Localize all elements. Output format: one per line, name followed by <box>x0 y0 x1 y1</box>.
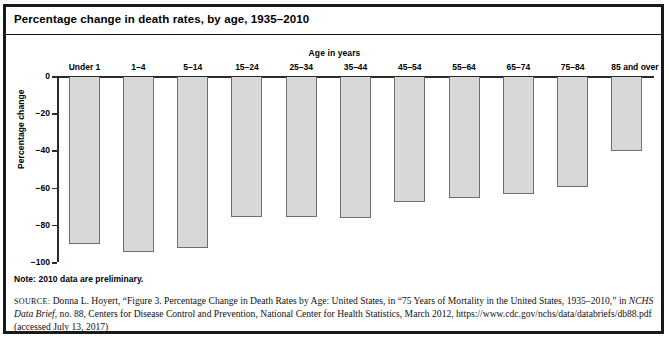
source-text-a: Donna L. Hoyert, “Figure 3. Percentage C… <box>50 295 385 306</box>
y-axis-line <box>57 76 59 262</box>
bar <box>123 77 154 252</box>
plot-area: 0−20−40−60−80−100 Under 11–45–1415–2425–… <box>57 76 654 262</box>
y-tick-mark <box>52 113 57 115</box>
category-label: 85 and over <box>611 62 642 72</box>
source-text-c: , no. 88, Centers for Disease Control an… <box>55 308 454 319</box>
y-tick-label: −60 <box>36 183 50 193</box>
bar <box>394 77 425 202</box>
bar <box>69 77 100 244</box>
figure-container: Percentage change in death rates, by age… <box>0 0 669 341</box>
title-divider <box>6 34 661 35</box>
category-label: 65–74 <box>503 62 534 72</box>
y-axis-title: Percentage change <box>16 89 26 169</box>
bar <box>286 77 317 217</box>
y-tick-mark <box>52 225 57 227</box>
category-label: 55–64 <box>449 62 480 72</box>
figure-border-top <box>3 4 664 7</box>
bar <box>449 77 480 198</box>
category-label: 45–54 <box>394 62 425 72</box>
category-label: 25–34 <box>286 62 317 72</box>
y-tick-mark <box>52 76 57 78</box>
y-tick-mark <box>52 188 57 190</box>
y-tick-label: −100 <box>31 257 50 267</box>
bar <box>557 77 588 187</box>
source-text-tail: in “75 Years of Mortality in the United … <box>385 295 564 306</box>
y-tick-label: −80 <box>36 220 50 230</box>
bar <box>340 77 371 218</box>
category-label: 35–44 <box>340 62 371 72</box>
bar <box>503 77 534 194</box>
bar <box>231 77 262 217</box>
category-label: 5–14 <box>177 62 208 72</box>
category-label: 15–24 <box>231 62 262 72</box>
source-label: SOURCE: <box>14 297 50 306</box>
y-tick-label: −20 <box>36 108 50 118</box>
category-label: 1–4 <box>123 62 154 72</box>
category-label: Under 1 <box>69 62 100 72</box>
y-tick-mark <box>52 150 57 152</box>
bar <box>177 77 208 248</box>
source-citation: SOURCE: Donna L. Hoyert, “Figure 3. Perc… <box>14 295 654 333</box>
x-axis-title: Age in years <box>0 48 669 58</box>
source-text-b: 1935–2010,” in <box>567 295 629 306</box>
bar <box>611 77 642 151</box>
category-label: 75–84 <box>557 62 588 72</box>
chart-title: Percentage change in death rates, by age… <box>14 13 309 25</box>
y-tick-label: 0 <box>45 71 50 81</box>
y-tick-mark <box>52 262 57 264</box>
y-tick-label: −40 <box>36 145 50 155</box>
chart-note: Note: 2010 data are preliminary. <box>14 274 143 284</box>
